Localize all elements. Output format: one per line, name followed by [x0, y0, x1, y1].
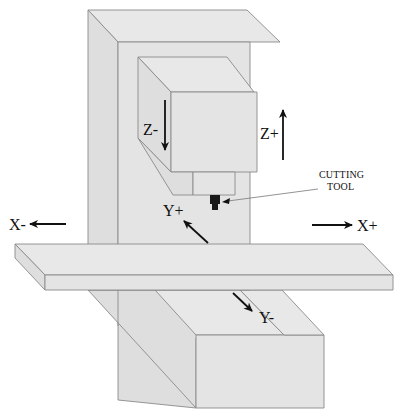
z-plus-label: Z+ [260, 125, 279, 142]
milling-machine-diagram: Z- Z+ X- X+ Y+ Y- CUTTING TOOL [0, 0, 408, 419]
y-plus-label: Y+ [163, 202, 184, 219]
x-minus-label: X- [9, 216, 26, 233]
base [88, 290, 324, 408]
x-plus-label: X+ [357, 217, 378, 234]
quill [193, 172, 235, 195]
cutting-tool-label-line1: CUTTING [319, 169, 364, 180]
z-minus-label: Z- [143, 121, 158, 138]
table [15, 244, 393, 290]
y-minus-label: Y- [259, 309, 274, 326]
cutting-tool-label-line2: TOOL [327, 181, 354, 192]
